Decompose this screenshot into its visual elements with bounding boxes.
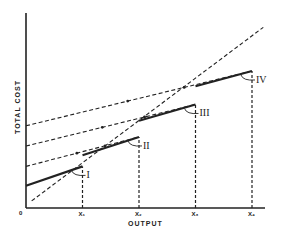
annotation-II: II (143, 140, 150, 151)
chart: 0 OUTPUT TOTAL COST X₁X₂X₃X₄ IIIIIIIV (0, 0, 288, 235)
x-tick-label-x1: X₁ (79, 211, 86, 217)
annotation-III: III (200, 107, 210, 118)
y-axis-label: TOTAL COST (14, 80, 21, 134)
line-marker (126, 100, 129, 103)
line-marker (101, 126, 104, 129)
annotation-IV: IV (256, 74, 267, 85)
annotation-hook-4 (241, 75, 255, 80)
annotation-hook-3 (185, 108, 199, 113)
origin-label: 0 (19, 210, 23, 216)
annotation-hook-2 (128, 141, 142, 146)
dashed-line-6 (26, 71, 252, 126)
dashed-line-4 (26, 137, 139, 166)
annotation-I: I (87, 169, 90, 180)
x-axis-label: OUTPUT (128, 220, 163, 227)
x-tick-label-x3: X₃ (192, 211, 199, 217)
annotation-hook-1 (72, 170, 86, 175)
x-tick-label-x2: X₂ (135, 211, 142, 217)
dashed-line-7 (32, 27, 264, 201)
x-tick-label-x4: X₄ (248, 211, 255, 217)
line-marker (75, 152, 78, 155)
